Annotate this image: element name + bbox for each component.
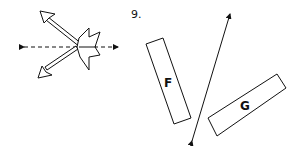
label-f: F xyxy=(164,76,172,90)
label-g: G xyxy=(240,99,250,113)
left-figure xyxy=(24,11,118,78)
lower-arrow-icon xyxy=(38,46,78,78)
right-figure: F G xyxy=(146,14,286,141)
upper-arrow-icon xyxy=(40,11,82,47)
fletching-icon xyxy=(77,28,100,70)
diagram-canvas: 9. F G xyxy=(0,0,294,150)
question-number: 9. xyxy=(131,8,142,21)
